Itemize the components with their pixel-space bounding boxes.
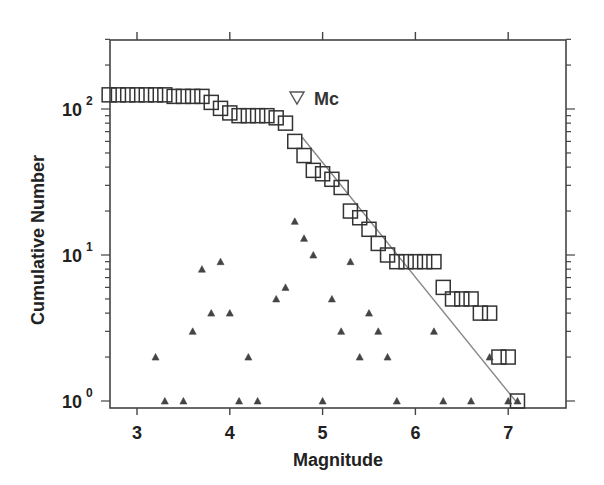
square-marker [306,163,320,177]
y-tick-label: 10 [62,100,82,120]
x-tick-label: 5 [318,423,328,443]
mc-label: Mc [314,89,339,109]
square-marker [464,292,478,306]
square-marker [186,89,200,103]
triangle-marker [198,266,205,273]
triangle-marker [291,218,298,225]
triangle-marker [384,354,391,361]
triangle-marker [226,310,233,317]
triangle-marker [180,398,187,405]
y-tick-label: 10 [62,246,82,266]
cumulative-series [102,88,524,408]
square-marker [214,101,228,115]
y-axis-title: Cumulative Number [28,155,48,325]
triangle-marker [375,328,382,335]
triangle-marker [468,398,475,405]
triangle-marker [393,398,400,405]
square-marker [501,350,515,364]
triangle-marker [430,328,437,335]
triangle-marker [338,328,345,335]
square-marker [483,306,497,320]
triangle-marker [319,398,326,405]
x-tick-label: 6 [410,423,420,443]
square-marker [408,255,422,269]
x-tick-label: 3 [132,423,142,443]
square-marker [492,350,506,364]
square-marker [121,88,135,102]
square-marker [111,88,125,102]
x-axis-title: Magnitude [293,450,383,470]
square-marker [195,89,209,103]
square-marker [427,255,441,269]
square-marker [418,255,432,269]
triangle-marker [440,398,447,405]
square-marker [241,109,255,123]
square-marker [176,89,190,103]
triangle-marker [356,354,363,361]
chart: 34567 100101102 Mc Magnitude Cumulative … [0,0,604,485]
square-marker [278,116,292,130]
x-tick-label: 7 [503,423,513,443]
x-tick-label: 4 [225,423,235,443]
square-marker [473,306,487,320]
triangle-marker [347,258,354,265]
x-tick-labels: 34567 [132,423,513,443]
triangle-marker [310,252,317,259]
square-marker [139,88,153,102]
triangle-marker [161,398,168,405]
triangle-marker [328,295,335,302]
square-marker [130,88,144,102]
y-tick-exponent: 2 [86,94,93,108]
triangle-marker [273,295,280,302]
square-marker [455,292,469,306]
triangle-marker [245,354,252,361]
square-marker [149,88,163,102]
triangle-marker [189,328,196,335]
square-marker [102,88,116,102]
y-tick-label: 10 [62,392,82,412]
square-marker [251,109,265,123]
square-marker [288,134,302,148]
y-tick-exponent: 1 [86,240,93,254]
y-tick-exponent: 0 [86,386,93,400]
mc-triangle-marker [290,92,304,104]
triangle-marker [301,235,308,242]
mc-annotation: Mc [290,89,339,109]
triangle-marker [282,284,289,291]
triangle-marker [152,354,159,361]
triangle-marker [217,258,224,265]
y-tick-labels: 100101102 [62,94,93,412]
triangle-marker [366,310,373,317]
triangle-marker [254,398,261,405]
triangle-marker [208,310,215,317]
square-marker [297,149,311,163]
noncumulative-series [152,218,521,404]
triangle-marker [236,398,243,405]
square-marker [204,95,218,109]
